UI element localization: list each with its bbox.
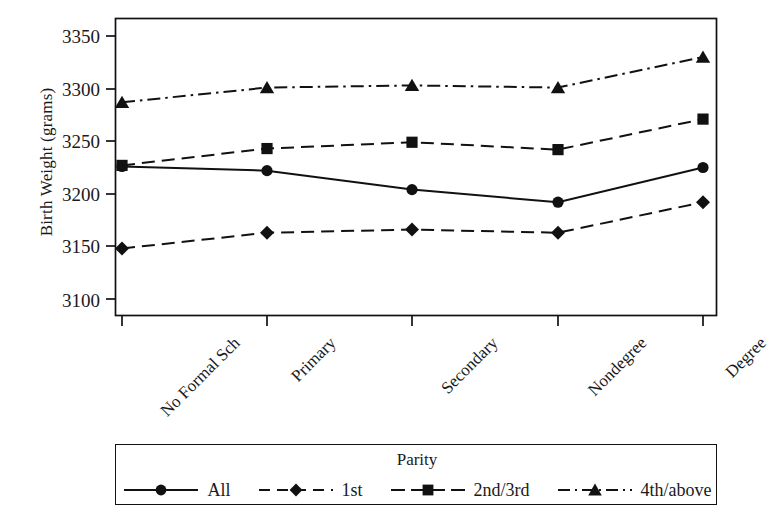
legend-label: All xyxy=(207,481,230,499)
circle-marker xyxy=(406,184,417,195)
legend-entries: All 1st 2nd/3rd xyxy=(116,476,718,504)
series-2nd-3rd xyxy=(116,114,708,171)
data-series-layer xyxy=(115,50,710,255)
x-axis-ticks xyxy=(122,316,703,326)
legend-label: 2nd/3rd xyxy=(474,481,530,499)
legend-sample-dashed-square xyxy=(389,481,467,499)
legend-label: 4th/above xyxy=(641,481,712,499)
legend-item-1st[interactable]: 1st xyxy=(257,481,363,499)
diamond-marker xyxy=(551,226,565,240)
square-marker xyxy=(116,160,127,171)
legend-title: Parity xyxy=(116,450,718,470)
legend-sample-solid-circle xyxy=(122,481,200,499)
circle-marker xyxy=(697,162,708,173)
circle-marker xyxy=(552,197,563,208)
series-line xyxy=(122,57,703,102)
square-marker xyxy=(697,114,708,125)
series-4th-above xyxy=(115,50,710,107)
axes-frame xyxy=(116,19,717,316)
legend-item-4th-above[interactable]: 4th/above xyxy=(556,481,712,499)
legend-item-all[interactable]: All xyxy=(122,481,230,499)
legend-sample-dashdot-triangle xyxy=(556,481,634,499)
series-all xyxy=(116,161,708,208)
triangle-marker xyxy=(696,50,710,62)
diamond-marker xyxy=(696,195,710,209)
triangle-marker xyxy=(260,81,274,93)
square-marker xyxy=(261,143,272,154)
legend: Parity All 1st xyxy=(115,444,717,505)
legend-sample-dashed-diamond xyxy=(257,481,335,499)
legend-item-2nd-3rd[interactable]: 2nd/3rd xyxy=(389,481,530,499)
series-1st xyxy=(115,195,710,255)
square-marker xyxy=(406,137,417,148)
circle-marker xyxy=(261,165,272,176)
diamond-marker xyxy=(260,226,274,240)
diamond-marker xyxy=(115,242,129,256)
y-axis-ticks xyxy=(106,36,115,299)
legend-label: 1st xyxy=(342,481,363,499)
square-marker xyxy=(552,144,563,155)
diamond-marker xyxy=(405,223,419,237)
